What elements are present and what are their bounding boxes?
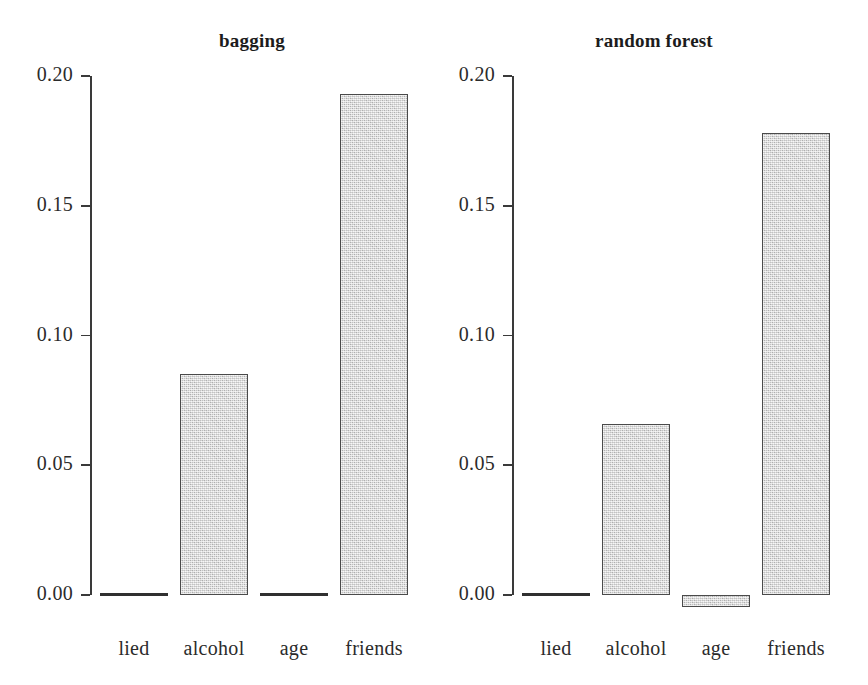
y-axis-tick-label-bagging-3: 0.15	[13, 193, 73, 216]
y-axis-tick-label-bagging-1: 0.05	[13, 452, 73, 475]
plot-area-random-forest: 0.000.050.100.150.20liedalcoholagefriend…	[440, 0, 868, 685]
chart-panel-bagging: bagging 0.000.050.100.150.20liedalcohola…	[0, 0, 440, 685]
y-axis-tick-bagging-4	[81, 75, 90, 77]
bar-bagging-age[interactable]	[260, 593, 328, 596]
y-axis-tick-label-random-forest-0: 0.00	[435, 582, 495, 605]
y-axis-spine-bagging	[90, 76, 92, 595]
y-axis-tick-random-forest-2	[503, 335, 512, 337]
y-axis-tick-random-forest-4	[503, 75, 512, 77]
bar-bagging-alcohol[interactable]	[180, 374, 248, 595]
y-axis-tick-bagging-0	[81, 594, 90, 596]
y-axis-tick-bagging-3	[81, 205, 90, 207]
bar-random-forest-alcohol[interactable]	[602, 424, 670, 595]
y-axis-tick-random-forest-1	[503, 464, 512, 466]
y-axis-tick-random-forest-0	[503, 594, 512, 596]
y-axis-tick-label-random-forest-2: 0.10	[435, 323, 495, 346]
y-axis-tick-label-bagging-2: 0.10	[13, 323, 73, 346]
y-axis-tick-bagging-1	[81, 464, 90, 466]
variable-importance-figure: bagging 0.000.050.100.150.20liedalcohola…	[0, 0, 868, 685]
y-axis-tick-bagging-2	[81, 335, 90, 337]
y-axis-tick-label-random-forest-1: 0.05	[435, 452, 495, 475]
y-axis-tick-label-random-forest-3: 0.15	[435, 193, 495, 216]
bar-random-forest-lied[interactable]	[522, 593, 590, 596]
plot-area-bagging: 0.000.050.100.150.20liedalcoholagefriend…	[0, 0, 440, 685]
bar-random-forest-age[interactable]	[682, 595, 750, 607]
chart-panel-random-forest: random forest 0.000.050.100.150.20liedal…	[440, 0, 868, 685]
y-axis-spine-random-forest	[512, 76, 514, 595]
y-axis-tick-label-bagging-0: 0.00	[13, 582, 73, 605]
y-axis-tick-label-random-forest-4: 0.20	[435, 63, 495, 86]
x-axis-category-label-bagging-friends: friends	[320, 637, 428, 660]
bar-bagging-friends[interactable]	[340, 94, 408, 595]
bar-bagging-lied[interactable]	[100, 593, 168, 596]
bar-random-forest-friends[interactable]	[762, 133, 830, 595]
x-axis-category-label-random-forest-friends: friends	[742, 637, 850, 660]
y-axis-tick-random-forest-3	[503, 205, 512, 207]
y-axis-tick-label-bagging-4: 0.20	[13, 63, 73, 86]
